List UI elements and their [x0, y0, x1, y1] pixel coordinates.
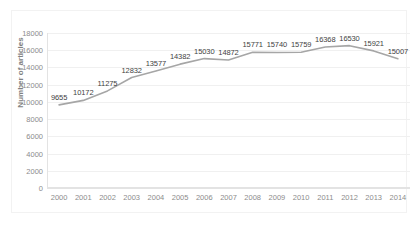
data-label: 12832 [122, 66, 142, 75]
data-label: 16368 [315, 35, 335, 44]
x-tick-label: 2012 [341, 193, 358, 202]
line-chart: Number of articles 020004000600080001000… [0, 0, 419, 226]
x-tick-label: 2006 [196, 193, 213, 202]
data-label: 16530 [339, 34, 359, 43]
x-tick-label: 2000 [51, 193, 68, 202]
x-tick-label: 2004 [148, 193, 165, 202]
x-tick-label: 2014 [390, 193, 407, 202]
x-tick-label: 2009 [269, 193, 286, 202]
y-tick-label: 16000 [22, 46, 43, 55]
x-tick-label: 2013 [365, 193, 382, 202]
data-label: 9655 [51, 93, 67, 102]
data-label: 14382 [170, 52, 190, 61]
y-tick-label: 18000 [22, 29, 43, 38]
x-tick-label: 2010 [293, 193, 310, 202]
x-tick-label: 2008 [244, 193, 261, 202]
y-tick-label: 14000 [22, 63, 43, 72]
data-label: 15007 [388, 47, 408, 56]
data-label: 13577 [146, 59, 166, 68]
y-tick-label: 8000 [26, 115, 43, 124]
data-label: 15771 [243, 40, 263, 49]
y-tick-label: 10000 [22, 97, 43, 106]
data-label: 15030 [194, 47, 214, 56]
data-label: 15759 [291, 40, 311, 49]
x-tick-label: 2002 [99, 193, 116, 202]
x-tick-label: 2001 [75, 193, 92, 202]
y-tick-label: 0 [39, 184, 43, 193]
y-tick-label: 12000 [22, 80, 43, 89]
data-label: 10172 [73, 88, 93, 97]
data-label: 15740 [267, 40, 287, 49]
y-tick-label: 4000 [26, 149, 43, 158]
y-tick-label: 6000 [26, 132, 43, 141]
gridline [47, 188, 410, 189]
y-tick-label: 2000 [26, 166, 43, 175]
data-label: 11275 [98, 79, 118, 88]
data-label: 15921 [364, 39, 384, 48]
data-label: 14872 [218, 48, 238, 57]
x-tick-label: 2005 [172, 193, 189, 202]
x-tick-label: 2007 [220, 193, 237, 202]
x-tick-label: 2011 [317, 193, 333, 202]
plot-area: 0200040006000800010000120001400016000180… [47, 33, 410, 188]
x-tick-label: 2003 [123, 193, 140, 202]
